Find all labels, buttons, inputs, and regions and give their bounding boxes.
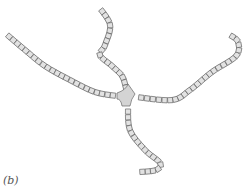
chain-segment [150,96,156,102]
bottom-arm [125,109,163,175]
chain-segment [145,169,151,175]
chain-segment [125,109,130,114]
chain-segment [99,91,105,97]
chain-segment [138,95,144,101]
figure-label: (b) [3,174,19,187]
chain-segment [105,92,111,98]
chain-segment [125,115,130,120]
right-arm [138,33,242,103]
chain-segment [144,95,150,101]
left-arm [5,33,115,98]
star-polymer-graphic [0,0,245,192]
top-arm [97,8,129,91]
chain-segment [162,97,167,102]
junction-node [117,84,135,106]
chain-segment [156,97,162,103]
chain-segment [140,169,146,175]
polymer-diagram: (b) [0,0,245,192]
chain-segment [110,93,116,99]
chain-segment [150,168,156,174]
